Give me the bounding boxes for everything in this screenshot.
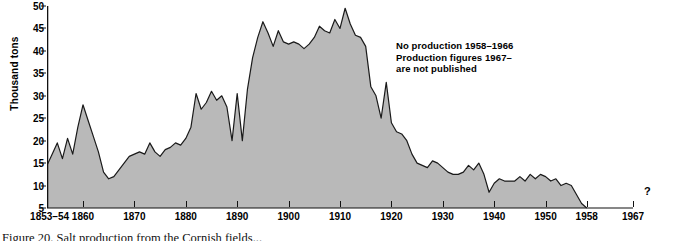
y-tick-mark bbox=[41, 28, 46, 29]
x-tick-label: 1853–54 bbox=[30, 211, 69, 222]
x-tick-mark bbox=[186, 201, 187, 207]
uncertainty-question-mark: ? bbox=[644, 185, 651, 197]
annotation-line-2: Production figures 1967– bbox=[396, 52, 513, 64]
x-tick-mark bbox=[289, 201, 290, 207]
x-tick-mark bbox=[237, 201, 238, 207]
y-tick-mark bbox=[41, 163, 46, 164]
x-tick-mark bbox=[494, 201, 495, 207]
y-tick-mark bbox=[41, 185, 46, 186]
y-tick-mark bbox=[41, 95, 46, 96]
y-tick-mark bbox=[41, 73, 46, 74]
annotation-line-3: are not published bbox=[396, 63, 513, 75]
y-tick-label: 45 bbox=[4, 23, 44, 34]
x-tick-label: 1940 bbox=[483, 211, 505, 222]
x-tick-label: 1880 bbox=[175, 211, 197, 222]
y-tick-mark bbox=[41, 118, 46, 119]
x-tick-mark bbox=[546, 201, 547, 207]
x-tick-mark bbox=[83, 201, 84, 207]
x-tick-mark bbox=[587, 201, 588, 207]
figure-caption: Figure 20. Salt production from the Corn… bbox=[2, 231, 262, 241]
area-series bbox=[47, 6, 633, 210]
plot-area bbox=[47, 6, 633, 208]
x-tick-mark bbox=[443, 201, 444, 207]
y-tick-mark bbox=[41, 208, 46, 209]
y-tick-mark bbox=[41, 6, 46, 7]
chart-annotation: No production 1958–1966 Production figur… bbox=[396, 40, 513, 75]
x-tick-label: 1958 bbox=[576, 211, 598, 222]
x-tick-label: 1930 bbox=[432, 211, 454, 222]
y-tick-label: 35 bbox=[4, 68, 44, 79]
x-tick-label: 1900 bbox=[277, 211, 299, 222]
chart-container: Thousand tons 5101520253035404550 1853–5… bbox=[0, 0, 685, 241]
y-tick-label: 40 bbox=[4, 45, 44, 56]
x-tick-label: 1860 bbox=[72, 211, 94, 222]
x-tick-mark bbox=[340, 201, 341, 207]
x-tick-mark bbox=[134, 201, 135, 207]
x-tick-label: 1950 bbox=[534, 211, 556, 222]
x-tick-label: 1920 bbox=[380, 211, 402, 222]
y-tick-label: 20 bbox=[4, 135, 44, 146]
y-tick-mark bbox=[41, 140, 46, 141]
y-tick-label: 10 bbox=[4, 180, 44, 191]
y-tick-label: 15 bbox=[4, 158, 44, 169]
x-tick-mark bbox=[633, 201, 634, 207]
y-tick-label: 25 bbox=[4, 113, 44, 124]
x-tick-label: 1910 bbox=[329, 211, 351, 222]
x-tick-label: 1967 bbox=[622, 211, 644, 222]
y-tick-mark bbox=[41, 50, 46, 51]
y-tick-label: 50 bbox=[4, 1, 44, 12]
area-fill bbox=[47, 8, 587, 208]
x-tick-label: 1890 bbox=[226, 211, 248, 222]
annotation-line-1: No production 1958–1966 bbox=[396, 40, 513, 52]
y-tick-label: 30 bbox=[4, 90, 44, 101]
x-tick-label: 1870 bbox=[123, 211, 145, 222]
x-tick-mark bbox=[391, 201, 392, 207]
